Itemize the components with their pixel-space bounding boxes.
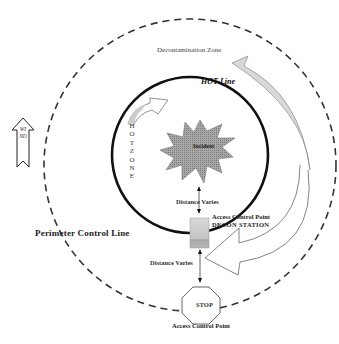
distance-arrow-lower-head-bottom xyxy=(198,278,202,283)
distance-varies-lower-label: Distance Varies xyxy=(150,260,193,267)
stop-sign-label: STOP xyxy=(196,302,213,309)
perimeter-control-line-label: Perimeter Control Line xyxy=(35,229,130,238)
distance-varies-upper-label: Distance Varies xyxy=(176,199,219,206)
decontamination-zone-label: Decontamination Zone xyxy=(157,47,221,54)
incident-starburst xyxy=(160,120,235,183)
access-control-point-bottom-label: Access Control Point xyxy=(172,323,230,330)
wind-label: WIND xyxy=(19,126,27,139)
decon-station-label: DECON STATION xyxy=(212,222,269,229)
distance-arrow-upper-head-top xyxy=(197,186,201,191)
hot-zone-label: HOT ZONE xyxy=(128,122,136,181)
hot-line-label: HOT Line xyxy=(201,78,235,86)
distance-arrow-upper-head-bottom xyxy=(197,209,201,214)
decon-station-box xyxy=(190,218,209,248)
distance-arrow-lower-head-top xyxy=(198,249,202,254)
incident-label: Incident xyxy=(193,143,214,149)
decon-flow-arrow-upper xyxy=(232,56,310,170)
access-control-point-decon-label: Access Control Point xyxy=(212,214,270,221)
